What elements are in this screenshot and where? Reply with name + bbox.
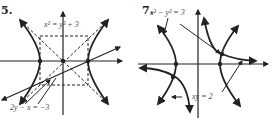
vertex-right (218, 62, 222, 66)
origin-point (61, 59, 65, 63)
equation-label-top: x² − y² = 3 (150, 8, 185, 17)
vertex-right (86, 59, 90, 63)
hyperbola-x2-y2-left (158, 26, 176, 104)
equation-label-bottom: 2y − x = −3 (10, 103, 49, 112)
vertex-left (38, 59, 42, 63)
equation-label-top: x² = y² + 3 (44, 20, 79, 29)
intersection-lower (171, 75, 175, 79)
figure-7: 7. x² − y² = 3 xy = 2 (136, 0, 272, 122)
line-2y-x (2, 47, 120, 100)
hyperbola-left-branch (20, 20, 40, 104)
figure-number: 5. (1, 4, 12, 17)
intersection-upper (220, 52, 224, 56)
equation-label-bottom: xy = 2 (192, 92, 213, 101)
hyperbola-x2-y2-right (220, 26, 240, 106)
hyperbola-xy-first-quadrant (204, 18, 256, 61)
figure-5: 5. x² = y² + 3 2y − x = −3 (0, 0, 136, 122)
vertex-left (174, 62, 178, 66)
hyperbola-xy-third-quadrant (140, 68, 190, 112)
figure-7-graph (136, 0, 272, 122)
hyperbola-right-branch (88, 20, 108, 104)
